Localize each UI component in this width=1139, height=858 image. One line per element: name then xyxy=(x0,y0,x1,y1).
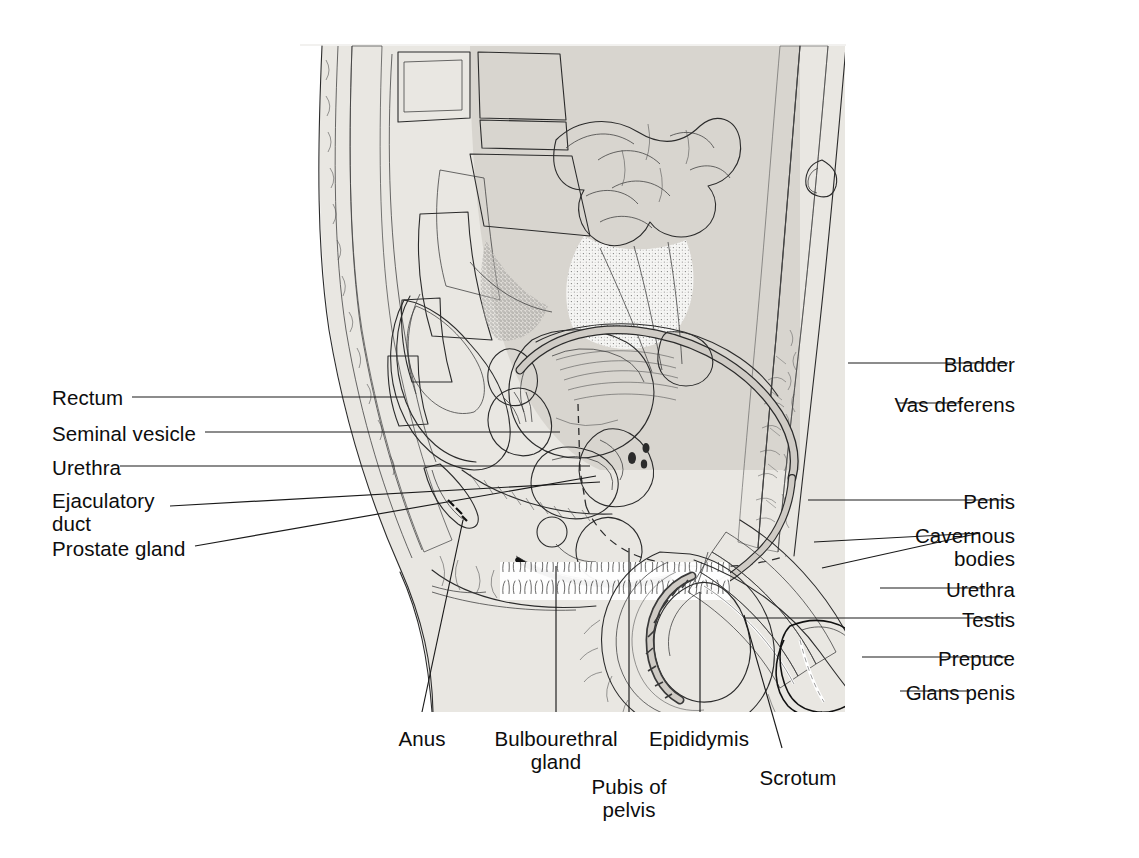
body-section xyxy=(319,46,866,756)
label-text: Glans penis xyxy=(906,681,1015,704)
label-testis: Testis xyxy=(962,608,1015,631)
label-text: Bladder xyxy=(944,353,1015,376)
label-text: Penis xyxy=(963,490,1015,513)
label-text: Testis xyxy=(962,608,1015,631)
label-epididymis: Epididymis xyxy=(559,727,839,750)
label-ejaculatory-duct: Ejaculatoryduct xyxy=(52,489,155,535)
label-vas-deferens: Vas deferens xyxy=(895,393,1015,416)
label-bladder: Bladder xyxy=(944,353,1015,376)
label-prepuce: Prepuce xyxy=(938,647,1015,670)
label-glans-penis: Glans penis xyxy=(906,681,1015,704)
label-urethra-right: Urethra xyxy=(946,578,1015,601)
ejaculatory-duct-lumen-b xyxy=(643,443,650,453)
label-text: Pubis of xyxy=(592,775,667,798)
label-text-line2: gland xyxy=(416,750,696,773)
label-text: Cavernous xyxy=(915,524,1015,547)
label-text: Prostate gland xyxy=(52,537,186,560)
label-text-line2: duct xyxy=(52,512,155,535)
label-penis: Penis xyxy=(963,490,1015,513)
label-scrotum: Scrotum xyxy=(658,766,938,789)
label-text: Seminal vesicle xyxy=(52,422,196,445)
label-text-line2: pelvis xyxy=(489,798,769,821)
label-text-line2: bodies xyxy=(915,547,1015,570)
ejaculatory-duct-lumen-c xyxy=(641,459,647,468)
label-text: Epididymis xyxy=(649,727,749,750)
prepuce-outer xyxy=(850,654,865,706)
ejaculatory-duct-lumen-a xyxy=(628,452,636,464)
label-seminal-vesicle: Seminal vesicle xyxy=(52,422,196,445)
label-prostate-gland: Prostate gland xyxy=(52,537,186,560)
label-text: Prepuce xyxy=(938,647,1015,670)
label-text: Urethra xyxy=(52,456,121,479)
label-rectum: Rectum xyxy=(52,386,123,409)
label-urethra-left: Urethra xyxy=(52,456,121,479)
label-cavernous-bodies: Cavernousbodies xyxy=(915,524,1015,570)
label-text: Vas deferens xyxy=(895,393,1015,416)
label-text: Scrotum xyxy=(759,766,836,789)
figure-canvas: RectumSeminal vesicleUrethraEjaculatoryd… xyxy=(0,0,1139,858)
label-text: Urethra xyxy=(946,578,1015,601)
label-text: Rectum xyxy=(52,386,123,409)
label-text: Ejaculatory xyxy=(52,489,155,512)
